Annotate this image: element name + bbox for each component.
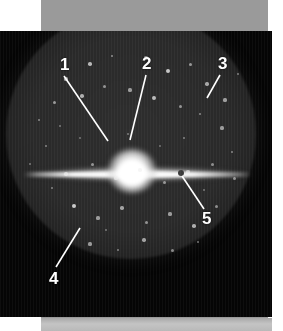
- leader-line-3: [207, 75, 220, 98]
- annotation-label-1: 1: [60, 56, 69, 73]
- annotation-label-3: 3: [218, 55, 227, 72]
- annotation-label-4: 4: [49, 270, 58, 287]
- photo-mount-bottom-edge: [41, 318, 272, 331]
- leader-line-1: [64, 76, 108, 141]
- leader-line-2: [130, 75, 146, 140]
- annotation-layer: 12345: [0, 31, 272, 317]
- leader-line-4: [56, 228, 80, 267]
- leader-line-5: [182, 176, 204, 209]
- astronomical-photograph: 12345: [0, 31, 272, 317]
- annotation-label-2: 2: [142, 55, 151, 72]
- leader-lines: [0, 31, 272, 317]
- figure-root: 12345: [0, 0, 283, 331]
- annotation-label-5: 5: [202, 210, 211, 227]
